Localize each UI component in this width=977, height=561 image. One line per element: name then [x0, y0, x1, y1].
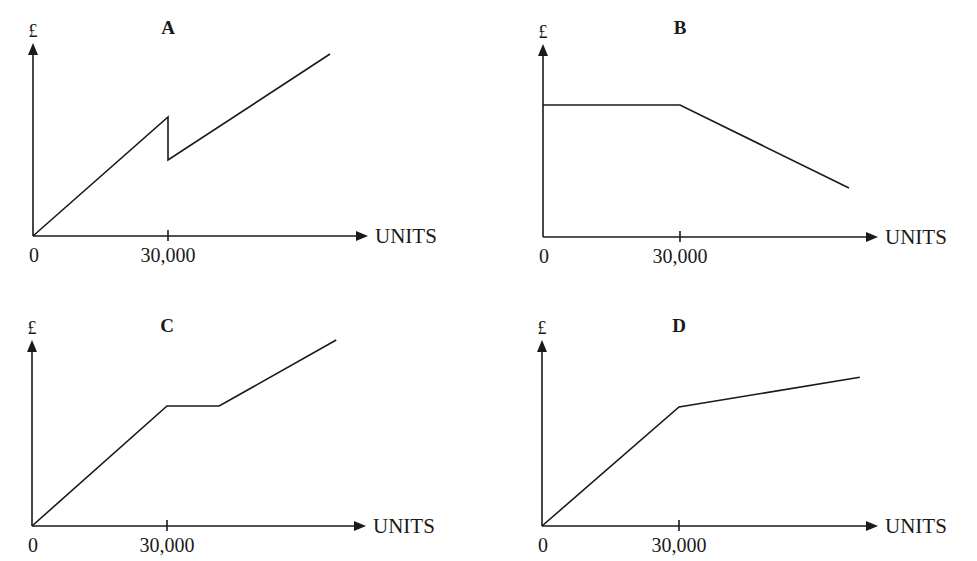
series-line-b — [543, 105, 849, 188]
x-axis-label: UNITS — [885, 225, 947, 249]
y-axis-label: £ — [28, 318, 37, 338]
charts-canvas: £AUNITS030,000£BUNITS030,000£CUNITS030,0… — [0, 0, 977, 561]
x-tick-label: 30,000 — [653, 245, 708, 267]
x-tick-label: 0 — [28, 534, 38, 556]
x-axis-arrow-icon — [354, 521, 366, 531]
x-tick-label: 30,000 — [652, 534, 707, 556]
y-axis-label: £ — [539, 22, 548, 42]
x-axis-label: UNITS — [885, 514, 947, 538]
x-tick-label: 30,000 — [141, 244, 196, 266]
chart-panel-a: £AUNITS030,000 — [28, 17, 437, 266]
series-line-d — [542, 377, 860, 526]
y-axis-label: £ — [29, 21, 38, 41]
chart-title: C — [160, 315, 174, 336]
x-axis-label: UNITS — [373, 514, 435, 538]
chart-title: D — [672, 315, 686, 336]
x-axis-label: UNITS — [375, 224, 437, 248]
x-axis-arrow-icon — [866, 521, 878, 531]
series-line-a — [33, 54, 330, 236]
x-axis-arrow-icon — [866, 232, 878, 242]
y-axis-label: £ — [538, 318, 547, 338]
x-tick-label: 0 — [29, 244, 39, 266]
chart-title: B — [674, 17, 687, 38]
series-line-c — [32, 340, 336, 526]
x-axis-arrow-icon — [356, 231, 368, 241]
chart-title: A — [161, 17, 175, 38]
x-tick-label: 0 — [539, 245, 549, 267]
y-axis-arrow-icon — [537, 340, 547, 352]
chart-panel-d: £DUNITS030,000 — [537, 315, 947, 556]
chart-panel-c: £CUNITS030,000 — [27, 315, 435, 556]
y-axis-arrow-icon — [27, 340, 37, 352]
x-tick-label: 30,000 — [140, 534, 195, 556]
chart-panel-b: £BUNITS030,000 — [538, 17, 947, 267]
y-axis-arrow-icon — [538, 44, 548, 56]
x-tick-label: 0 — [538, 534, 548, 556]
y-axis-arrow-icon — [28, 43, 38, 55]
